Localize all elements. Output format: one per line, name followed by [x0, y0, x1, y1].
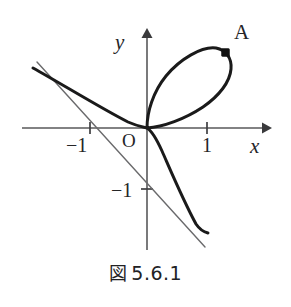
folium-loop — [147, 48, 231, 128]
figure-caption: 図5.6.1 — [0, 259, 291, 285]
x-axis-arrowhead — [262, 123, 272, 134]
point-a-marker — [222, 49, 230, 57]
asymptote-line — [37, 62, 205, 247]
point-a-label: A — [234, 22, 249, 43]
figure-container: y x O −1 1 −1 A 図5.6.1 — [0, 0, 291, 307]
caption-number: 5.6.1 — [131, 262, 182, 284]
y-axis-label: y — [115, 32, 124, 53]
x-tick-label-1: 1 — [202, 135, 212, 155]
x-tick-label-minus-1: −1 — [66, 135, 87, 155]
caption-symbol: 図 — [109, 263, 128, 284]
x-axis-label: x — [250, 136, 259, 157]
y-axis-arrowhead — [142, 28, 153, 38]
y-tick-label-minus-1: −1 — [111, 180, 132, 200]
origin-label: O — [122, 131, 136, 150]
folium-open-branch — [33, 68, 208, 233]
